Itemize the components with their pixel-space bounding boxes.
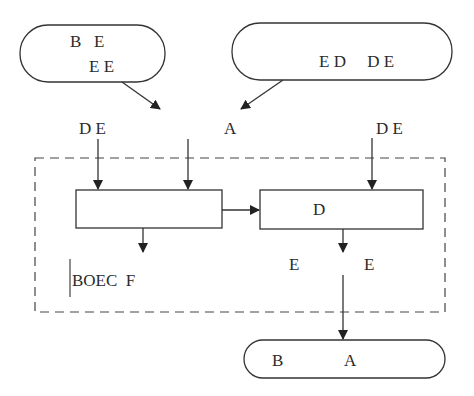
left-output-label: BOEC F bbox=[72, 272, 135, 289]
right-process-label: D bbox=[313, 201, 325, 218]
input-label-left: D E bbox=[79, 120, 106, 137]
top-left-terminal-line1: B E bbox=[70, 33, 104, 50]
top-left-terminal-line2: E E bbox=[89, 58, 114, 75]
bottom-terminal-left-text: B bbox=[272, 352, 283, 369]
right-output-label-left: E bbox=[289, 256, 299, 273]
left-process-box bbox=[76, 190, 222, 228]
arrow-top-left-to-center bbox=[122, 82, 160, 109]
right-output-label-right: E bbox=[364, 256, 374, 273]
input-label-right: D E bbox=[376, 120, 403, 137]
flow-diagram bbox=[0, 0, 474, 396]
top-right-terminal-text: E D D E bbox=[319, 53, 394, 70]
input-label-center: A bbox=[224, 120, 236, 137]
right-process-box bbox=[260, 190, 423, 229]
arrow-top-right-to-center bbox=[241, 80, 283, 109]
bottom-terminal-right-text: A bbox=[344, 352, 356, 369]
